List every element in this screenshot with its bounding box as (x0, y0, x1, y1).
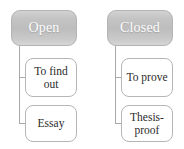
child-node-thesis-proof[interactable]: Thesis- proof (121, 105, 173, 142)
child-node-essay[interactable]: Essay (25, 105, 77, 142)
connector-trunk-closed (115, 46, 116, 123)
root-node-open-label: Open (28, 21, 59, 35)
child-line-2: proof (135, 124, 160, 136)
child-line-1: To find (34, 65, 67, 77)
root-node-closed-label: Closed (120, 21, 160, 35)
branch-open: Open To find out Essay (0, 0, 92, 149)
branch-closed: Closed To prove Thesis- proof (96, 0, 184, 149)
child-line-1: Thesis- (130, 111, 164, 123)
child-node-to-prove[interactable]: To prove (121, 58, 173, 97)
child-node-essay-label: Essay (34, 117, 69, 130)
diagram-canvas: Open To find out Essay Closed To prove T (0, 0, 184, 149)
child-node-to-prove-label: To prove (122, 71, 171, 84)
child-node-to-find-out[interactable]: To find out (25, 58, 77, 97)
child-node-thesis-proof-label: Thesis- proof (126, 111, 168, 137)
child-line-2: out (44, 78, 59, 90)
connector-trunk-open (19, 46, 20, 123)
root-node-closed[interactable]: Closed (107, 10, 173, 46)
child-node-to-find-out-label: To find out (30, 65, 71, 91)
root-node-open[interactable]: Open (11, 10, 77, 46)
